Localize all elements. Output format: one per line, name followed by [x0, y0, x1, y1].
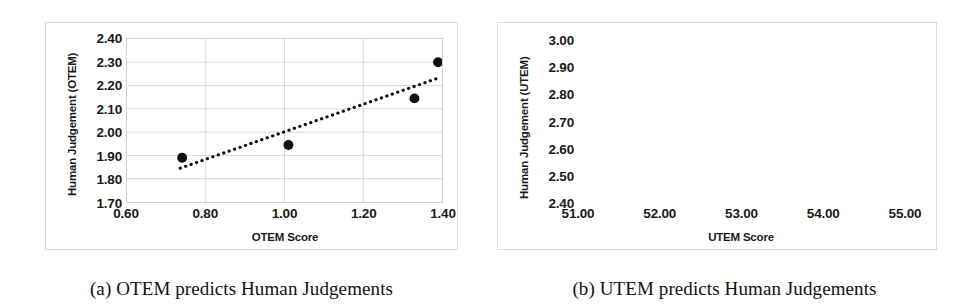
y-tick-label: 2.10 [97, 101, 122, 116]
x-tick-label: 1.20 [351, 206, 376, 221]
x-tick-label: 51.00 [562, 206, 595, 221]
caption-a: (a) OTEM predicts Human Judgements [0, 278, 483, 300]
x-tick-label: 55.00 [889, 206, 922, 221]
x-tick-label: 53.00 [725, 206, 758, 221]
y-tick-label: 2.90 [549, 60, 574, 75]
figure-row: Human Judgement (OTEM) 1.701.801.902.002… [0, 0, 966, 304]
y-tick-label: 2.20 [97, 78, 122, 93]
data-point-marker [433, 57, 442, 67]
y-tick-label: 1.80 [97, 172, 122, 187]
y-tick-label: 2.70 [549, 114, 574, 129]
data-point-marker [177, 153, 187, 163]
y-tick-label: 2.80 [549, 87, 574, 102]
scatter-plot-a [127, 39, 442, 202]
y-axis-title-a: Human Judgement (OTEM) [66, 53, 78, 196]
x-tick-label: 52.00 [643, 206, 676, 221]
x-tick-label: 1.00 [272, 206, 297, 221]
x-tick-label: 0.60 [113, 206, 138, 221]
x-tick-label: 54.00 [807, 206, 840, 221]
x-axis-title-a: OTEM Score [252, 231, 318, 243]
caption-b: (b) UTEM predicts Human Judgements [483, 278, 966, 300]
subfigure-b: Human Judgement (UTEM) 2.402.502.602.702… [483, 0, 966, 304]
trendline [180, 77, 440, 168]
x-tick-label: 0.80 [193, 206, 218, 221]
x-tick-label: 1.40 [430, 206, 455, 221]
y-tick-label: 3.00 [549, 33, 574, 48]
y-axis-title-b: Human Judgement (UTEM) [518, 56, 530, 199]
plot-area-a [126, 38, 443, 203]
data-point-marker [409, 93, 419, 103]
y-tick-label: 2.00 [97, 125, 122, 140]
y-tick-label: 1.90 [97, 148, 122, 163]
y-tick-label: 2.40 [97, 31, 122, 46]
y-tick-label: 2.30 [97, 54, 122, 69]
y-tick-label: 2.60 [549, 141, 574, 156]
data-point-marker [283, 140, 293, 150]
x-axis-title-b: UTEM Score [708, 231, 774, 243]
y-tick-label: 2.50 [549, 168, 574, 183]
subfigure-a: Human Judgement (OTEM) 1.701.801.902.002… [0, 0, 483, 304]
